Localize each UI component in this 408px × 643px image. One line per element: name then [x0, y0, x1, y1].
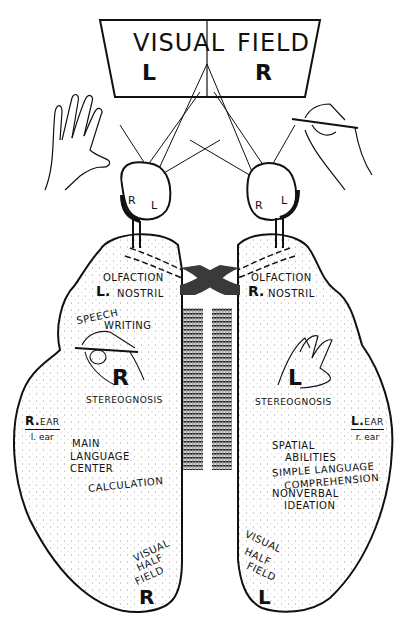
left-hand-letter: R	[112, 365, 129, 390]
right-hand-pencil-drawing	[292, 104, 372, 190]
right-function-4: NONVERBAL	[272, 488, 339, 499]
right-olfaction-label: OLFACTION	[251, 272, 312, 283]
left-eye-l: L	[151, 200, 158, 211]
left-hand-drawing	[45, 95, 110, 190]
right-stereognosis-label: STEREOGNOSIS	[255, 397, 332, 408]
left-ear-label: R.EAR l. ear	[25, 414, 60, 442]
right-function-1: ABILITIES	[285, 452, 336, 463]
left-ear-main: EAR	[40, 417, 60, 427]
corpus-callosum	[183, 308, 232, 470]
right-hand-letter: L	[288, 365, 302, 390]
left-ear-letter: R.	[25, 414, 40, 428]
left-eye-r: R	[128, 195, 136, 206]
right-function-0: SPATIAL	[272, 440, 315, 451]
right-ear-sub: r. ear	[351, 430, 384, 442]
right-nostril-letter: R.	[248, 283, 264, 299]
left-function-2: CENTER	[70, 463, 113, 474]
left-nostril-letter: L.	[96, 283, 110, 299]
visual-field-title-left: VISUAL	[133, 29, 225, 57]
left-function-1: LANGUAGE	[70, 451, 130, 462]
right-function-5: IDEATION	[284, 500, 335, 511]
right-ear-main: EAR	[364, 417, 384, 427]
visual-field-title-right: FIELD	[237, 29, 310, 57]
writing-label: WRITING	[104, 320, 152, 331]
right-visual-letter: L	[258, 585, 271, 609]
right-ear-letter: L.	[351, 414, 364, 428]
left-olfaction-label: OLFACTION	[103, 272, 164, 283]
visual-field-right-letter: R	[255, 60, 272, 85]
left-nostril-label: NOSTRIL	[117, 288, 164, 299]
left-function-0: MAIN	[72, 438, 100, 449]
visual-field-left-letter: L	[142, 60, 156, 85]
right-nostril-label: NOSTRIL	[268, 288, 315, 299]
left-visual-letter: R	[139, 585, 154, 609]
right-eye-r: R	[255, 200, 263, 211]
left-stereognosis-label: STEREOGNOSIS	[86, 395, 163, 406]
right-eye-l: L	[281, 195, 288, 206]
right-ear-label: L.EAR r. ear	[351, 414, 384, 442]
split-brain-diagram	[0, 0, 408, 643]
left-ear-sub: l. ear	[25, 430, 60, 442]
